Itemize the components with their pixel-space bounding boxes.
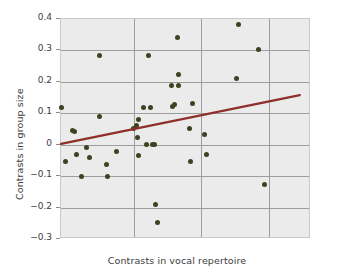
y-tick-label: 0 [18,138,52,148]
y-tick-label: −0.3 [18,232,52,242]
y-tick-label: −0.2 [18,201,52,211]
y-tick-mark [56,238,60,239]
scatter-plot-figure: Contrasts in group size Contrasts in voc… [0,0,354,274]
x-axis-label: Contrasts in vocal repertoire [0,255,354,266]
y-tick-label: 0.3 [18,43,52,53]
y-tick-label: 0.1 [18,106,52,116]
y-tick-label: −0.1 [18,169,52,179]
y-tick-label: 0.2 [18,75,52,85]
y-tick-label: 0.4 [18,12,52,22]
trend-line-segment [61,95,300,144]
trend-line [61,19,311,239]
plot-area [60,18,310,238]
